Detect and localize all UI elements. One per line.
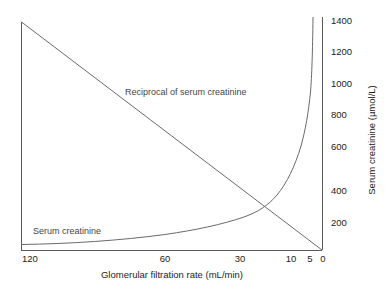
x-tick-label-10: 10 [286,253,297,264]
x-axis-title: Glomerular filtration rate (mL/min) [101,269,243,280]
x-tick-label-0: 0 [320,253,325,264]
y-axis-title-right: Serum creatinine (µmol/L) [366,85,377,194]
y-tick-label-600: 600 [331,141,347,152]
y-tick-label-400: 400 [331,185,347,196]
series-reciprocal-of-serum-creatinine-line [22,22,323,250]
x-tick-label-30: 30 [235,253,246,264]
y-tick-label-1200: 1200 [331,46,352,57]
x-tick-label-5: 5 [307,253,312,264]
y-tick-label-800: 800 [331,109,347,120]
chart-figure: 120 60 30 10 5 0 1400 1200 1000 800 600 … [0,0,387,301]
chart-plot-area: 120 60 30 10 5 0 1400 1200 1000 800 600 … [0,0,387,301]
x-tick-label-120: 120 [22,253,38,264]
x-tick-label-60: 60 [160,253,171,264]
y-tick-label-1400: 1400 [331,15,352,26]
y-tick-label-200: 200 [331,217,347,228]
y-tick-label-1000: 1000 [331,78,352,89]
annotation-serum-creatinine: Serum creatinine [33,226,101,236]
annotation-reciprocal-of-serum-creatinine: Reciprocal of serum creatinine [125,87,247,97]
